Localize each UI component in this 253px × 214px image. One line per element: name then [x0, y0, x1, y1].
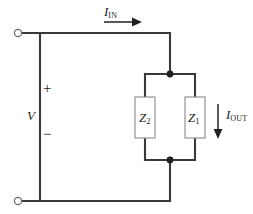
circuit-schematic-svg	[0, 0, 253, 214]
current-in-subscript: IN	[108, 11, 117, 20]
polarity-plus-label: +	[43, 81, 51, 96]
circuit-diagram: IIN IOUT V + − Z2 Z1	[0, 0, 253, 214]
impedance-z2-subscript: 2	[146, 116, 150, 126]
impedance-z2-label: Z2	[139, 111, 151, 124]
current-out-label: IOUT	[226, 108, 247, 121]
terminal-open-circle-top	[14, 29, 21, 36]
voltage-label: V	[27, 109, 35, 122]
impedance-z1-label: Z1	[188, 111, 200, 124]
current-in-label: IIN	[104, 5, 117, 18]
current-out-subscript: OUT	[230, 114, 247, 123]
junction-dot-top	[167, 71, 174, 78]
impedance-z1-subscript: 1	[195, 116, 199, 126]
current-in-arrow-head	[132, 18, 142, 27]
current-out-arrow-head	[214, 129, 223, 139]
polarity-minus-label: −	[43, 127, 51, 142]
terminal-open-circle-bottom	[14, 197, 21, 204]
junction-dot-bottom	[167, 157, 174, 164]
